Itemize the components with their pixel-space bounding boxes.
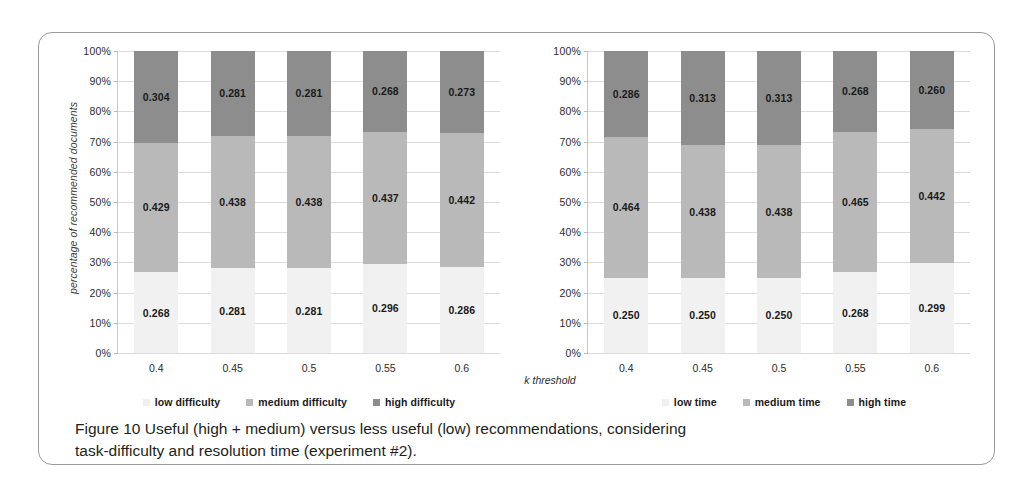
bar-segment: 0.438 xyxy=(211,136,255,268)
bar-value-label: 0.299 xyxy=(918,302,945,314)
y-axis-tick-label: 90% xyxy=(89,75,111,87)
legend-label: high time xyxy=(859,396,907,408)
bar-segment: 0.313 xyxy=(681,51,725,145)
y-axis-tick-label: 100% xyxy=(553,45,581,57)
y-axis-tick xyxy=(114,262,118,263)
bar-segment: 0.281 xyxy=(211,51,255,136)
chart-resolution-time: 0%10%20%30%40%50%60%70%80%90%100%0.2500.… xyxy=(519,33,989,403)
y-axis-tick-label: 20% xyxy=(89,287,111,299)
chart-task-difficulty: percentage of recommended documents 0%10… xyxy=(49,33,519,403)
x-axis-tick-label: 0.45 xyxy=(222,362,242,374)
bar-value-label: 0.313 xyxy=(689,92,716,104)
bar-value-label: 0.281 xyxy=(296,87,323,99)
bar-value-label: 0.442 xyxy=(918,190,945,202)
legend-swatch-icon xyxy=(743,399,750,406)
y-axis-tick xyxy=(584,111,588,112)
bar-segment: 0.268 xyxy=(134,272,178,353)
bar-segment: 0.286 xyxy=(440,267,484,353)
bar-value-label: 0.286 xyxy=(613,88,640,100)
x-axis-tick-label: 0.4 xyxy=(619,362,634,374)
y-axis-tick xyxy=(584,202,588,203)
bar-value-label: 0.281 xyxy=(219,305,246,317)
y-axis-tick-label: 80% xyxy=(559,105,581,117)
x-axis-tick-label: 0.55 xyxy=(375,362,395,374)
bar-value-label: 0.250 xyxy=(689,309,716,321)
bar-value-label: 0.304 xyxy=(143,91,170,103)
legend-item: low time xyxy=(662,396,717,408)
y-axis-tick-label: 50% xyxy=(559,196,581,208)
legend-item: medium time xyxy=(743,396,821,408)
y-axis-tick xyxy=(114,51,118,52)
bar-stack: 0.2860.4420.273 xyxy=(440,51,484,353)
y-axis-tick xyxy=(114,293,118,294)
bar-segment: 0.260 xyxy=(910,51,954,129)
y-axis-tick-label: 40% xyxy=(559,226,581,238)
y-axis-tick-label: 20% xyxy=(559,287,581,299)
bar-segment: 0.437 xyxy=(363,132,407,264)
bar-stack: 0.2680.4650.268 xyxy=(833,51,877,353)
charts-row: percentage of recommended documents 0%10… xyxy=(39,33,996,403)
y-axis-tick-label: 10% xyxy=(89,317,111,329)
legend-label: medium difficulty xyxy=(258,396,347,408)
bar-value-label: 0.438 xyxy=(219,196,246,208)
legend-item: high time xyxy=(847,396,907,408)
y-axis-tick xyxy=(114,353,118,354)
x-axis-tick-label: 0.6 xyxy=(924,362,939,374)
bar-segment: 0.442 xyxy=(910,129,954,262)
gridline xyxy=(118,353,500,354)
legend-swatch-icon xyxy=(246,399,253,406)
x-axis-tick-label: 0.45 xyxy=(692,362,712,374)
bar-segment: 0.281 xyxy=(287,51,331,136)
y-axis-tick xyxy=(114,202,118,203)
bar-value-label: 0.260 xyxy=(918,84,945,96)
y-axis-tick xyxy=(584,81,588,82)
y-axis-tick-label: 60% xyxy=(89,166,111,178)
legend-swatch-icon xyxy=(143,399,150,406)
bar-segment: 0.281 xyxy=(287,268,331,353)
bar-value-label: 0.268 xyxy=(842,85,869,97)
figure-caption-line-1: Figure 10 Useful (high + medium) versus … xyxy=(75,418,775,440)
y-axis-tick xyxy=(584,51,588,52)
y-axis-tick xyxy=(114,111,118,112)
bar-stack: 0.2990.4420.260 xyxy=(910,51,954,353)
bar-value-label: 0.313 xyxy=(766,92,793,104)
bar-value-label: 0.464 xyxy=(613,201,640,213)
bar-segment: 0.299 xyxy=(910,263,954,353)
legend-swatch-icon xyxy=(847,399,854,406)
legend-item: low difficulty xyxy=(143,396,221,408)
y-axis-tick xyxy=(584,323,588,324)
bar-segment: 0.429 xyxy=(134,143,178,272)
y-axis-title-text: percentage of recommended documents xyxy=(67,73,79,323)
y-axis-tick-label: 100% xyxy=(83,45,111,57)
plot-area-difficulty: 0%10%20%30%40%50%60%70%80%90%100%0.2680.… xyxy=(117,51,500,354)
x-axis-tick-label: 0.5 xyxy=(302,362,317,374)
bar-segment: 0.268 xyxy=(833,51,877,132)
legend-task-difficulty: low difficultymedium difficultyhigh diff… xyxy=(99,393,499,411)
y-axis-tick xyxy=(584,293,588,294)
y-axis-tick xyxy=(584,232,588,233)
legend-swatch-icon xyxy=(373,399,380,406)
legend-label: low time xyxy=(674,396,717,408)
y-axis-tick-label: 10% xyxy=(559,317,581,329)
bar-segment: 0.250 xyxy=(757,278,801,353)
legend-resolution-time: low timemedium timehigh time xyxy=(584,393,984,411)
x-axis-tick-label: 0.5 xyxy=(772,362,787,374)
y-axis-tick-label: 50% xyxy=(89,196,111,208)
bar-segment: 0.296 xyxy=(363,264,407,353)
bar-value-label: 0.268 xyxy=(842,307,869,319)
bar-value-label: 0.438 xyxy=(766,206,793,218)
bar-value-label: 0.437 xyxy=(372,192,399,204)
bar-segment: 0.281 xyxy=(211,268,255,353)
figure-frame: percentage of recommended documents 0%10… xyxy=(38,32,995,465)
y-axis-tick-label: 70% xyxy=(559,136,581,148)
bar-value-label: 0.250 xyxy=(613,309,640,321)
bar-value-label: 0.286 xyxy=(448,304,475,316)
bar-stack: 0.2500.4380.313 xyxy=(757,51,801,353)
bar-value-label: 0.268 xyxy=(372,85,399,97)
y-axis-tick xyxy=(114,172,118,173)
bar-segment: 0.442 xyxy=(440,133,484,266)
bar-stack: 0.2500.4640.286 xyxy=(604,51,648,353)
y-axis-tick-label: 0% xyxy=(565,347,581,359)
x-axis-tick-label: 0.55 xyxy=(845,362,865,374)
bar-stack: 0.2680.4290.304 xyxy=(134,51,178,353)
